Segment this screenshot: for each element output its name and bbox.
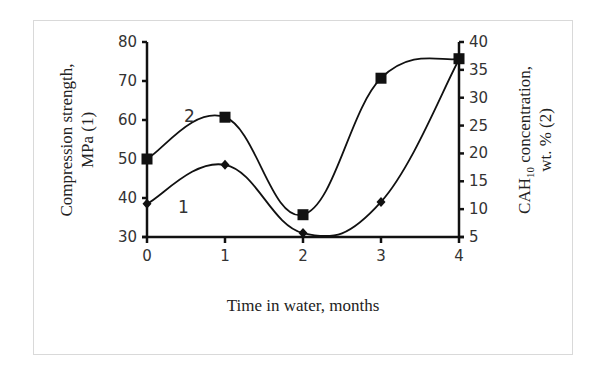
square-marker (298, 209, 309, 220)
x-tick-label: 1 (220, 247, 230, 265)
y-right-tick-label: 35 (469, 61, 488, 79)
y-left-tick-label: 80 (118, 33, 137, 51)
y-right-tick-label: 15 (469, 172, 488, 190)
square-marker (142, 154, 153, 165)
line-chart: 30405060708051015202530354001234 21 Time… (0, 0, 605, 373)
y-right-tick-label: 10 (469, 200, 488, 218)
y-right-tick-label: 25 (469, 117, 488, 135)
y-right-tick-label: 40 (469, 33, 488, 51)
y-right-axis-title-line2: wt. % (2) (536, 108, 555, 172)
series-line (147, 58, 459, 215)
square-marker (454, 53, 465, 64)
x-tick-label: 0 (142, 247, 152, 265)
y-right-tick-label: 30 (469, 89, 488, 107)
series-group: 21 (142, 53, 465, 238)
y-left-axis-title-line1: Compression strength, (57, 64, 76, 217)
series-2 (142, 53, 465, 220)
y-left-tick-label: 30 (118, 228, 137, 246)
y-left-axis-title-line2: MPa (1) (78, 112, 97, 168)
diamond-marker (221, 160, 230, 170)
y-right-tick-label: 20 (469, 144, 488, 162)
y-left-tick-label: 60 (118, 111, 137, 129)
y-right-axis-title-line1: CAH10 concentration, (515, 66, 536, 214)
x-tick-label: 2 (298, 247, 308, 265)
square-marker (220, 112, 231, 123)
series-2-label: 2 (184, 106, 195, 126)
y-left-tick-label: 50 (118, 150, 137, 168)
y-right-tick-label: 5 (469, 228, 479, 246)
x-axis-title: Time in water, months (227, 296, 380, 315)
series-1-label: 1 (178, 197, 189, 217)
x-tick-label: 4 (454, 247, 464, 265)
square-marker (376, 73, 387, 84)
y-left-tick-label: 40 (118, 189, 137, 207)
y-left-tick-label: 70 (118, 72, 137, 90)
x-tick-label: 3 (376, 247, 386, 265)
diamond-marker (143, 199, 152, 209)
